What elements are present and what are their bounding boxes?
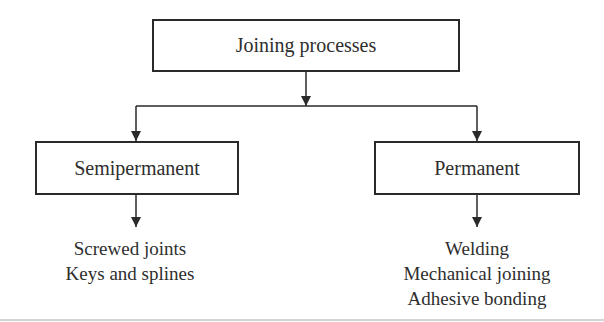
category-label-permanent: Permanent [434, 157, 520, 180]
root-node-label: Joining processes [236, 34, 377, 57]
list-item: Adhesive bonding [377, 286, 577, 311]
list-item: Mechanical joining [377, 261, 577, 286]
arrow-down-icon [131, 131, 141, 141]
list-item: Keys and splines [30, 261, 230, 286]
arrow-down-icon [472, 131, 482, 141]
diagram-canvas: Joining processes Semipermanent Permanen… [0, 0, 604, 322]
list-item: Screwed joints [30, 236, 230, 261]
list-item: Welding [377, 236, 577, 261]
root-connector [301, 72, 311, 106]
semipermanent-items-connector [131, 195, 141, 227]
arrow-down-icon [131, 217, 141, 227]
category-node-semipermanent: Semipermanent [35, 141, 239, 195]
permanent-connector [472, 106, 482, 141]
category-node-permanent: Permanent [374, 141, 580, 195]
category-label-semipermanent: Semipermanent [74, 157, 200, 180]
bottom-divider [0, 319, 604, 321]
permanent-items-connector [472, 195, 482, 227]
arrow-down-icon [301, 96, 311, 106]
semipermanent-items-list: Screwed joints Keys and splines [30, 236, 230, 286]
root-node-joining-processes: Joining processes [152, 19, 460, 72]
semipermanent-connector [131, 106, 141, 141]
permanent-items-list: Welding Mechanical joining Adhesive bond… [377, 236, 577, 311]
arrow-down-icon [472, 217, 482, 227]
